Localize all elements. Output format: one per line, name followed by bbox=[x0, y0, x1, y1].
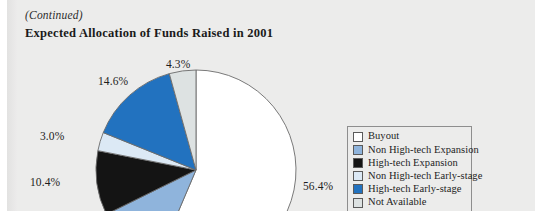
legend-item[interactable]: Not Available bbox=[353, 196, 467, 209]
legend-item[interactable]: High-tech Expansion bbox=[353, 156, 467, 169]
legend-item-label: Buyout bbox=[368, 131, 399, 142]
pie-label-not-available: 4.3% bbox=[166, 58, 190, 70]
legend-swatch-icon bbox=[353, 184, 363, 194]
chart-page: (Continued) Expected Allocation of Funds… bbox=[0, 0, 541, 211]
chart-legend: BuyoutNon High-tech ExpansionHigh-tech E… bbox=[347, 126, 472, 211]
legend-item[interactable]: Buyout bbox=[353, 130, 467, 143]
legend-swatch-icon bbox=[353, 158, 363, 168]
legend-item-label: Non High-tech Early-stage bbox=[368, 171, 482, 182]
legend-item[interactable]: Non High-tech Early-stage bbox=[353, 170, 467, 183]
legend-swatch-icon bbox=[353, 198, 363, 208]
pie-label-buyout: 56.4% bbox=[303, 180, 333, 192]
pie-label-high-tech-early-stage: 14.6% bbox=[98, 75, 128, 87]
legend-swatch-icon bbox=[353, 171, 363, 181]
pie-slices bbox=[96, 70, 296, 211]
legend-swatch-icon bbox=[353, 132, 363, 142]
pie-label-non-high-tech-early-stage: 3.0% bbox=[40, 130, 64, 142]
pie-label-high-tech-expansion: 10.4% bbox=[30, 176, 60, 188]
legend-item[interactable]: Non High-tech Expansion bbox=[353, 143, 467, 156]
legend-item[interactable]: High-tech Early-stage bbox=[353, 183, 467, 196]
legend-item-label: High-tech Early-stage bbox=[368, 184, 461, 195]
legend-swatch-icon bbox=[353, 145, 363, 155]
legend-item-label: High-tech Expansion bbox=[368, 158, 458, 169]
legend-item-label: Non High-tech Expansion bbox=[368, 145, 479, 156]
legend-item-label: Not Available bbox=[368, 197, 426, 208]
